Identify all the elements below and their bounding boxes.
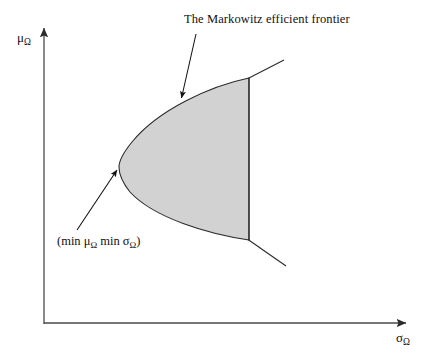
min-label-open: (min [57, 234, 84, 248]
frontier-title-label: The Markowitz efficient frontier [184, 12, 350, 27]
x-axis-label-subscript: Ω [403, 337, 410, 347]
min-variance-point-label: (min μΩ min σΩ) [57, 234, 140, 250]
min-label-mid: min [97, 234, 123, 248]
min-label-sigma: σ [123, 234, 130, 248]
y-axis-label-symbol: μ [17, 30, 24, 45]
x-axis-label-symbol: σ [396, 330, 403, 345]
y-axis-label: μΩ [17, 30, 31, 47]
y-axis-label-subscript: Ω [24, 37, 31, 47]
markowitz-efficient-frontier-diagram [0, 0, 440, 356]
x-axis-label: σΩ [396, 330, 410, 347]
min-label-close: ) [136, 234, 140, 248]
